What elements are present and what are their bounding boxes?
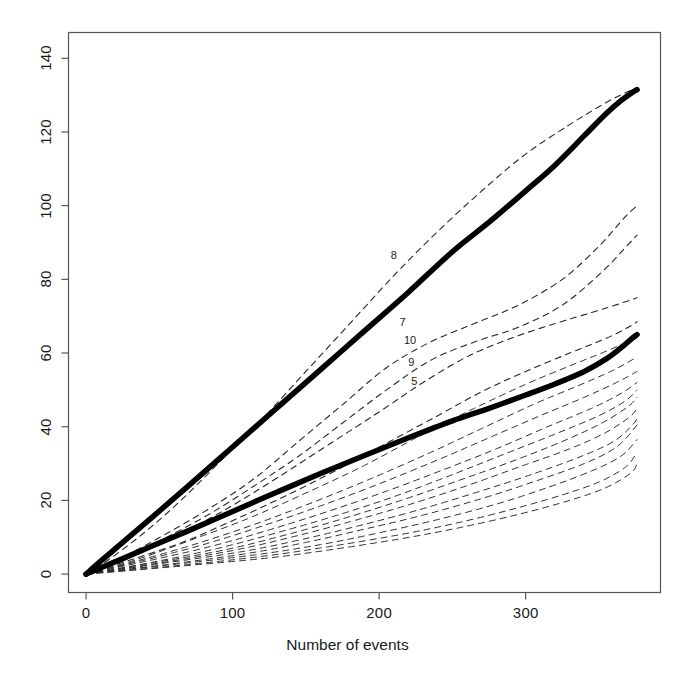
curve-label-8: 8: [391, 249, 397, 261]
axis-ticks: [62, 58, 526, 599]
curve-unit-c: [86, 371, 637, 574]
plot-frame: [69, 33, 661, 593]
curve-label-10: 10: [404, 334, 416, 346]
curve-label-9: 9: [408, 356, 414, 368]
plot-canvas: [0, 0, 695, 684]
curve-unit-e: [86, 390, 637, 574]
y-tick-label-20: 20: [37, 480, 55, 520]
x-tick-label-100: 100: [203, 604, 263, 621]
curve-unit-10: [86, 235, 637, 574]
y-tick-label-80: 80: [37, 259, 55, 299]
curve-upper-bound: [86, 90, 637, 574]
y-tick-label-60: 60: [37, 333, 55, 373]
y-tick-label-40: 40: [37, 407, 55, 447]
y-tick-label-0: 0: [37, 554, 55, 594]
y-tick-label-100: 100: [37, 186, 55, 226]
data-curves: [86, 88, 637, 574]
x-tick-label-200: 200: [349, 604, 409, 621]
curve-label-7: 7: [400, 316, 406, 328]
y-tick-label-120: 120: [37, 112, 55, 152]
curve-label-5: 5: [411, 375, 417, 387]
curve-unit-j: [86, 440, 637, 574]
x-axis-title: Number of events: [0, 636, 695, 654]
x-tick-label-0: 0: [56, 604, 116, 621]
chart-figure: 0100200300020406080100120140 871095 Numb…: [0, 0, 695, 684]
curve-unit-k: [86, 453, 637, 575]
y-tick-label-140: 140: [37, 38, 55, 78]
x-tick-label-300: 300: [496, 604, 556, 621]
curve-unit-i: [86, 423, 637, 574]
curve-unit-h: [86, 416, 637, 574]
